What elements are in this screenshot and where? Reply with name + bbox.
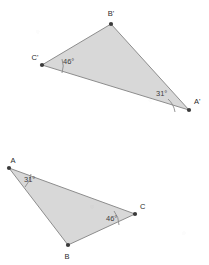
vertex-label-b-prime: B' — [108, 9, 115, 18]
vertex-dot-c — [133, 212, 137, 216]
vertex-dot-a — [7, 166, 11, 170]
vertex-label-a: A — [10, 156, 15, 165]
triangle-lower-group: A B C 31° 46° — [7, 156, 146, 261]
vertex-label-c: C — [140, 202, 146, 211]
angle-label-c: 46° — [106, 214, 117, 223]
angle-label-a-prime: 31° — [156, 89, 167, 98]
vertex-label-c-prime: C' — [32, 53, 39, 62]
angle-label-a: 31° — [24, 175, 35, 184]
vertex-label-a-prime: A' — [194, 97, 201, 106]
vertex-dot-a-prime — [187, 108, 191, 112]
vertex-label-b: B — [64, 252, 69, 261]
similar-triangles-svg: B' A' C' 46° 31° A B C 31° 46° — [0, 0, 209, 265]
vertex-dot-b — [66, 243, 70, 247]
geometry-figure: B' A' C' 46° 31° A B C 31° 46° — [0, 0, 209, 265]
vertex-dot-c-prime — [40, 63, 44, 67]
angle-label-c-prime: 46° — [63, 57, 74, 66]
triangle-upper-group: B' A' C' 46° 31° — [32, 9, 201, 112]
vertex-dot-b-prime — [109, 22, 113, 26]
